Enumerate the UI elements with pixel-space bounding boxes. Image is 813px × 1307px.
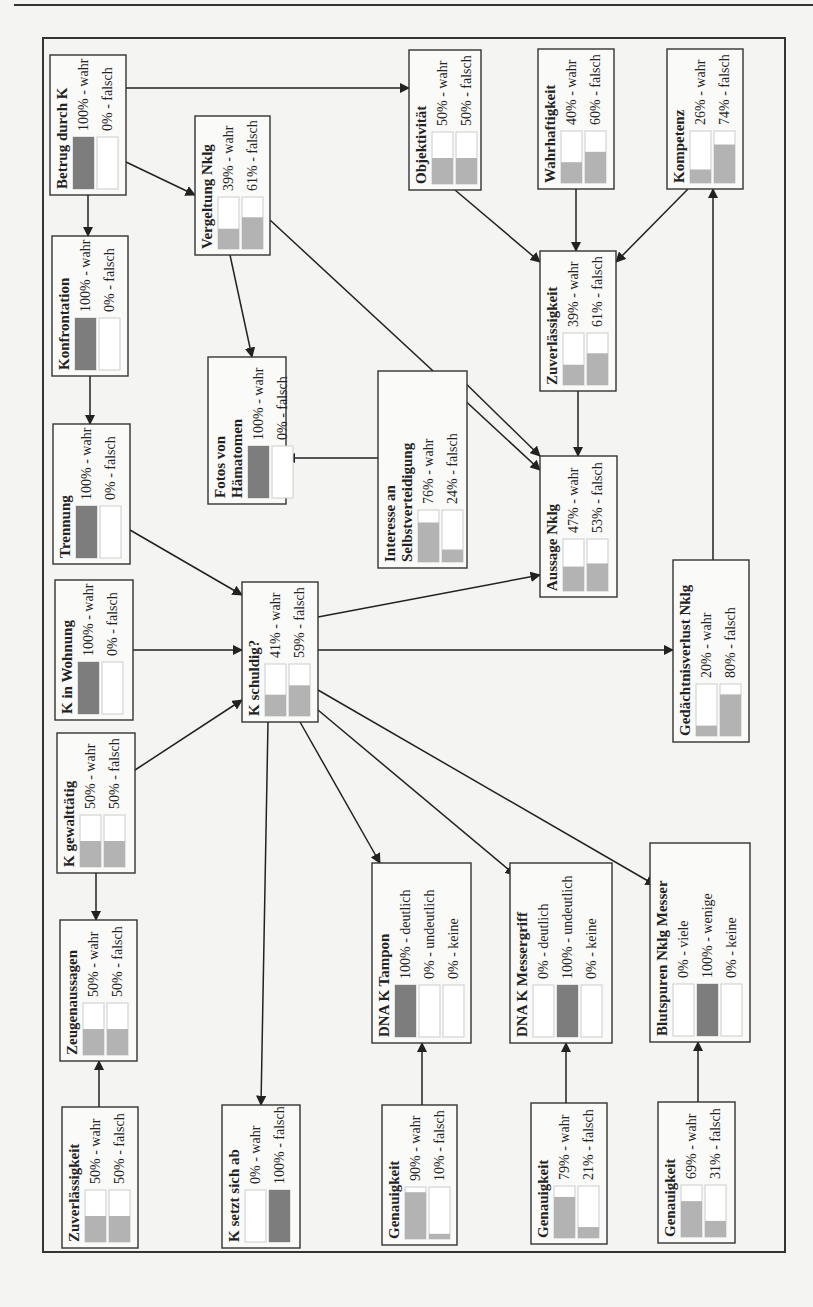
node-state-label: 21% - falsch bbox=[581, 1109, 596, 1180]
probability-bar-fill bbox=[720, 694, 741, 736]
probability-bar-fill bbox=[681, 1201, 702, 1237]
node-state-label: 10% - falsch bbox=[432, 1110, 447, 1181]
node-state-label: 74% - falsch bbox=[717, 54, 732, 125]
probability-bar-fill bbox=[563, 365, 584, 385]
node-genauigkeit2[interactable]: Genauigkeit79% - wahr21% - falsch bbox=[531, 1103, 607, 1244]
node-state-label: 41% - wahr bbox=[268, 592, 283, 658]
node-title: Vergeltung Nklg bbox=[199, 144, 215, 249]
node-vergeltung[interactable]: Vergeltung Nklg39% - wahr61% - falsch bbox=[195, 116, 270, 255]
node-wohnung[interactable]: K in Wohnung100% - wahr0% - falsch bbox=[55, 580, 133, 720]
probability-bar-bg bbox=[721, 984, 742, 1036]
probability-bar-fill bbox=[242, 217, 263, 249]
node-dna_tampon[interactable]: DNA K Tampon100% - deutlich0% - undeutli… bbox=[372, 863, 471, 1043]
probability-bar-bg bbox=[97, 137, 118, 189]
node-state-label: 39% - wahr bbox=[221, 125, 236, 191]
node-title: Zeugenaussagen bbox=[64, 949, 80, 1055]
node-title: K gewalttätig bbox=[61, 780, 77, 867]
probability-bar-fill bbox=[73, 137, 94, 189]
node-wahrhaftigkeit[interactable]: Wahrhaftigkeit40% - wahr60% - falsch bbox=[538, 49, 614, 189]
probability-bar-fill bbox=[289, 685, 310, 716]
probability-bar-bg bbox=[581, 985, 602, 1037]
node-state-label: 100% - undeutlich bbox=[560, 876, 575, 979]
node-schuldig[interactable]: K schuldig?41% - wahr59% - falsch bbox=[242, 582, 318, 722]
node-objektivitaet[interactable]: Objektivität50% - wahr50% - falsch bbox=[409, 50, 481, 190]
edge-gewalttaetig-to-schuldig bbox=[135, 700, 242, 770]
node-kompetenz[interactable]: Kompetenz26% - wahr74% - falsch bbox=[667, 49, 743, 189]
node-title: DNA K Tampon bbox=[376, 933, 392, 1037]
node-trennung[interactable]: Trennung100% - wahr0% - falsch bbox=[53, 424, 130, 564]
node-zuverlaessigkeit_r[interactable]: Zuverlässigkeit39% - wahr61% - falsch bbox=[540, 251, 616, 391]
probability-bar-bg bbox=[245, 1190, 266, 1242]
node-fotos[interactable]: Fotos vonHämatomen100% - wahr0% - falsch bbox=[208, 357, 293, 504]
probability-bar-fill bbox=[85, 1216, 106, 1242]
node-state-label: 60% - falsch bbox=[588, 54, 603, 125]
probability-bar-fill bbox=[587, 353, 608, 385]
node-state-label: 100% - wahr bbox=[81, 583, 96, 656]
node-state-label: 0% - wahr bbox=[248, 1125, 263, 1184]
node-title: Trennung bbox=[57, 495, 73, 558]
node-zuverlaessigkeit_l[interactable]: Zuverlässigkeit50% - wahr50% - falsch bbox=[62, 1107, 138, 1248]
node-title: Selbstverteidigung bbox=[399, 442, 415, 562]
probability-bar-fill bbox=[578, 1227, 599, 1238]
node-title: Wahrhaftigkeit bbox=[542, 85, 558, 183]
node-title: Zuverlässigkeit bbox=[66, 1144, 82, 1242]
node-genauigkeit3[interactable]: Genauigkeit69% - wahr31% - falsch bbox=[658, 1102, 735, 1243]
node-absetzen[interactable]: K setzt sich ab0% - wahr100% - falsch bbox=[222, 1105, 300, 1248]
node-interesse[interactable]: Interesse anSelbstverteidigung76% - wahr… bbox=[378, 371, 467, 568]
node-state-label: 40% - wahr bbox=[564, 59, 579, 125]
node-title: Genauigkeit bbox=[386, 1161, 402, 1239]
probability-bar-fill bbox=[104, 841, 125, 867]
node-title: Genauigkeit bbox=[662, 1159, 678, 1237]
node-title: Aussage Nklg bbox=[544, 503, 560, 591]
probability-bar-fill bbox=[80, 841, 101, 867]
node-genauigkeit1[interactable]: Genauigkeit90% - wahr10% - falsch bbox=[382, 1105, 457, 1245]
probability-bar-fill bbox=[429, 1234, 450, 1239]
edge-schuldig-to-aussage bbox=[318, 575, 540, 617]
node-gewalttaetig[interactable]: K gewalttätig50% - wahr50% - falsch bbox=[57, 733, 135, 873]
node-state-label: 0% - falsch bbox=[105, 592, 120, 656]
node-blutspuren[interactable]: Blutspuren Nklg Messer0% - viele100% - w… bbox=[650, 843, 750, 1042]
probability-bar-fill bbox=[107, 1029, 128, 1055]
node-state-label: 50% - falsch bbox=[110, 926, 125, 997]
probability-bar-fill bbox=[697, 984, 718, 1036]
probability-bar-fill bbox=[248, 446, 269, 498]
node-state-label: 24% - falsch bbox=[445, 433, 460, 504]
edge-trennung-to-schuldig bbox=[130, 530, 242, 595]
node-state-label: 50% - falsch bbox=[112, 1113, 127, 1184]
probability-bar-bg bbox=[533, 985, 554, 1037]
node-state-label: 100% - falsch bbox=[272, 1106, 287, 1184]
node-state-label: 50% - wahr bbox=[88, 1118, 103, 1184]
node-title: Betrug durch K bbox=[54, 87, 70, 189]
node-state-label: 31% - falsch bbox=[708, 1108, 723, 1179]
node-title: Blutspuren Nklg Messer bbox=[654, 880, 670, 1036]
node-betrug[interactable]: Betrug durch K100% - wahr0% - falsch bbox=[50, 55, 126, 195]
edge-vergeltung-to-fotos bbox=[230, 255, 252, 357]
node-dna_messer[interactable]: DNA K Messergriff0% - deutlich100% - und… bbox=[510, 863, 612, 1043]
probability-bar-fill bbox=[265, 695, 286, 716]
node-aussage[interactable]: Aussage Nklg47% - wahr53% - falsch bbox=[540, 456, 617, 597]
probability-bar-bg bbox=[443, 985, 464, 1037]
node-state-label: 0% - falsch bbox=[102, 248, 117, 312]
node-gedaechtnis[interactable]: Gedächtnisverlust Nklg20% - wahr80% - fa… bbox=[673, 560, 749, 742]
node-state-label: 59% - falsch bbox=[292, 587, 307, 658]
node-state-label: 50% - wahr bbox=[86, 931, 101, 997]
node-state-label: 0% - undeutlich bbox=[422, 890, 437, 979]
node-title: Zuverlässigkeit bbox=[544, 287, 560, 385]
probability-bar-bg bbox=[429, 1187, 450, 1239]
node-title: Fotos von bbox=[212, 435, 228, 498]
node-state-label: 39% - wahr bbox=[566, 261, 581, 327]
node-state-label: 0% - keine bbox=[446, 918, 461, 979]
node-title: K setzt sich ab bbox=[226, 1149, 242, 1242]
probability-bar-fill bbox=[705, 1221, 726, 1237]
probability-bar-fill bbox=[456, 158, 477, 184]
probability-bar-fill bbox=[418, 522, 439, 562]
edge-schuldig-to-dna_messer bbox=[318, 710, 515, 875]
node-konfrontation[interactable]: Konfrontation100% - wahr0% - falsch bbox=[52, 236, 128, 376]
node-state-label: 50% - falsch bbox=[459, 55, 474, 126]
probability-bar-fill bbox=[714, 145, 735, 183]
node-state-label: 0% - keine bbox=[724, 917, 739, 978]
edge-objektivitaet-to-zuverlaessigkeit_r bbox=[455, 190, 540, 262]
node-zeugen[interactable]: Zeugenaussagen50% - wahr50% - falsch bbox=[60, 920, 137, 1061]
node-state-label: 20% - wahr bbox=[699, 612, 714, 678]
node-title: K in Wohnung bbox=[59, 620, 75, 714]
